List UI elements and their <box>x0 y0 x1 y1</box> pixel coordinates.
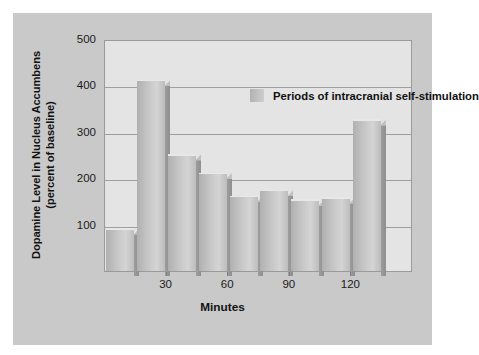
x-tick-30 <box>166 272 167 276</box>
x-tick-60 <box>227 272 228 276</box>
bar-90-105 <box>291 200 319 271</box>
bar-top-face <box>322 197 350 199</box>
bar-top-face <box>137 80 165 82</box>
bar-top-face <box>230 196 258 198</box>
y-tick-label-100: 100 <box>62 219 96 231</box>
x-tick-label-90: 90 <box>282 278 295 290</box>
x-tick-120 <box>350 272 351 276</box>
y-axis-title-line1: Dopamine Level in Nucleus Accumbens <box>30 51 42 259</box>
bar-15-30 <box>137 81 165 271</box>
bar-0-15 <box>106 229 134 271</box>
y-axis-title: Dopamine Level in Nucleus Accumbens (per… <box>26 30 60 280</box>
bar-top-face <box>260 190 288 192</box>
bar-105-120 <box>322 198 350 271</box>
y-tick-label-400: 400 <box>62 79 96 91</box>
bar-60-75 <box>230 197 258 271</box>
x-tick-label-120: 120 <box>341 278 360 290</box>
legend-label-stimulation: Periods of intracranial self-stimulation <box>273 90 479 102</box>
bar-top-face <box>199 173 227 175</box>
bar-120-135 <box>353 120 381 271</box>
bar-top-face <box>106 228 134 230</box>
y-axis-title-line2: (percent of baseline) <box>43 101 55 208</box>
legend-swatch-stimulation <box>250 89 264 102</box>
x-axis-title: Minutes <box>0 300 445 314</box>
chart-legend: Periods of intracranial self-stimulation <box>250 89 479 102</box>
x-axis: 306090120 <box>104 272 412 298</box>
bar-45-60 <box>199 174 227 271</box>
bar-75-90 <box>260 191 288 271</box>
bar-30-45 <box>168 155 196 271</box>
y-tick-label-300: 300 <box>62 126 96 138</box>
x-tick-label-60: 60 <box>221 278 234 290</box>
bar-top-face <box>291 199 319 201</box>
y-tick-label-200: 200 <box>62 172 96 184</box>
x-tick-label-30: 30 <box>159 278 172 290</box>
plot-area: Periods of intracranial self-stimulation <box>104 40 412 272</box>
y-tick-label-500: 500 <box>62 33 96 45</box>
bar-top-face <box>353 119 381 121</box>
bar-top-face <box>168 154 196 156</box>
x-tick-90 <box>289 272 290 276</box>
bar-side-face <box>381 125 386 276</box>
